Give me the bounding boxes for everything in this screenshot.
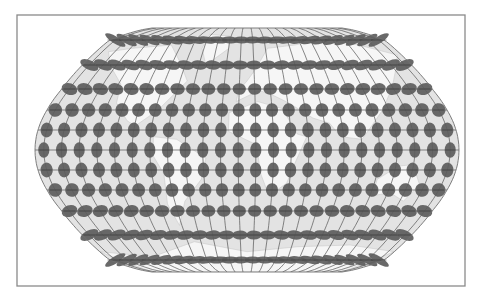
map-canvas — [0, 0, 492, 300]
map-figure: Tissot's indicatrix on a pseudocylindric… — [0, 0, 492, 300]
